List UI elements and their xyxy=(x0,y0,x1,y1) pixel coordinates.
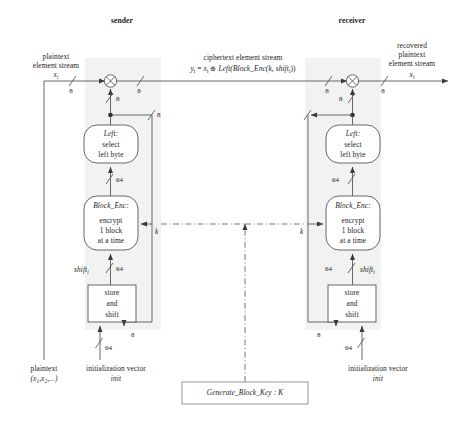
receiver-key-label: k xyxy=(300,227,303,236)
keygen-label: Generate_Block_Key : K xyxy=(207,388,284,397)
ciphertext-formula: yi = xi ⊕ Left(Block_Enc(k, shifti)) xyxy=(190,64,295,73)
ciphertext-label: ciphertext element stream xyxy=(204,53,283,62)
sender-left-box-name: Left: xyxy=(104,129,118,138)
sender-enc-box-name: Block_Enc: xyxy=(93,201,128,210)
receiver-title: receiver xyxy=(339,16,366,25)
sender-feedback-width: 8 xyxy=(116,95,120,104)
sender-input-symbol: xi xyxy=(54,70,59,79)
sender-output-width: 8 xyxy=(137,87,141,96)
sender-enc-box-line2: 1 block xyxy=(100,226,123,235)
receiver-shift-width: 64 xyxy=(325,265,332,274)
receiver-input-width: 8 xyxy=(325,87,329,96)
sender-shift-box-line1: store xyxy=(105,288,120,297)
receiver-enc-box-line1: encrypt xyxy=(342,216,365,225)
sender-key-label: k xyxy=(155,227,158,236)
sender-title: sender xyxy=(111,16,133,25)
sender-source-sequence: (x1,x2,...) xyxy=(30,374,57,383)
sender-shift-label: shifti xyxy=(74,265,89,274)
sender-iv-name: init xyxy=(111,374,121,383)
sender-iv-label: initialization vector xyxy=(86,364,146,373)
receiver-left-width: 64 xyxy=(332,176,339,185)
sender-enc-box-line3: at a time xyxy=(98,236,124,245)
receiver-left-box-line2: left byte xyxy=(340,150,365,159)
sender-branch-width: 8 xyxy=(157,111,161,120)
receiver-enc-box-line2: 1 block xyxy=(342,226,365,235)
sender-source-label: plaintext xyxy=(31,364,58,373)
receiver-output-label-line3: element stream xyxy=(389,59,435,68)
cfb-mode-diagram: sender receiver plaintext element stream… xyxy=(0,0,462,430)
sender-left-width: 64 xyxy=(116,176,123,185)
receiver-shift-label: shifti xyxy=(360,265,375,274)
receiver-enc-box-line3: at a time xyxy=(340,236,366,245)
sender-input-label-line1: plaintext xyxy=(43,52,70,61)
sender-left-box-line2: left byte xyxy=(98,150,123,159)
receiver-shift-box-line2: and xyxy=(347,299,358,308)
sender-shift-box-line2: and xyxy=(107,299,118,308)
sender-left-box-line1: select xyxy=(102,140,119,149)
receiver-left-box-line1: select xyxy=(344,140,361,149)
sender-shift-box-line3: shift xyxy=(105,310,119,319)
receiver-enc-box-name: Block_Enc: xyxy=(335,201,370,210)
receiver-feedback8-width: 8 xyxy=(317,331,321,340)
receiver-iv-label: initialization vector xyxy=(348,364,408,373)
sender-input-label-line2: element stream xyxy=(33,61,79,70)
receiver-output-label-line1: recovered xyxy=(397,41,427,50)
receiver-shift-box-line1: store xyxy=(345,288,360,297)
receiver-shift-box-line3: shift xyxy=(345,310,359,319)
receiver-output-symbol: xi xyxy=(410,70,415,79)
sender-input-width: 8 xyxy=(69,87,73,96)
receiver-output-label-line2: plaintext xyxy=(399,50,426,59)
sender-iv-width: 64 xyxy=(105,344,112,353)
sender-feedback8-width: 8 xyxy=(131,331,135,340)
receiver-left-box-name: Left: xyxy=(346,129,360,138)
receiver-output-width: 8 xyxy=(381,87,385,96)
sender-shift-width: 64 xyxy=(116,265,123,274)
sender-enc-box-line1: encrypt xyxy=(100,216,123,225)
receiver-iv-width: 64 xyxy=(345,344,352,353)
receiver-iv-name: init xyxy=(373,374,383,383)
receiver-feedback-width: 8 xyxy=(339,95,343,104)
